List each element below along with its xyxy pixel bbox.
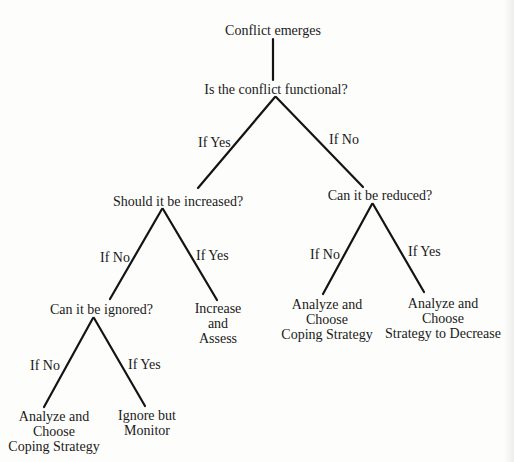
outcome-ignore-monitor: Ignore but Monitor [112, 408, 182, 438]
node-is-functional: Is the conflict functional? [196, 82, 356, 97]
outcome-line: Coping Strategy [0, 439, 108, 454]
label-increase-no: If No [100, 250, 130, 265]
tree-edges [0, 0, 514, 462]
node-can-reduce: Can it be reduced? [325, 188, 435, 203]
outcome-line: and [183, 316, 253, 331]
label-ignore-no: If No [30, 358, 60, 373]
outcome-line: Monitor [112, 423, 182, 438]
label-ignore-yes: If Yes [128, 357, 161, 372]
node-conflict-emerges: Conflict emerges [213, 23, 333, 38]
label-functional-no: If No [329, 132, 359, 147]
outcome-line: Choose [0, 424, 108, 439]
outcome-line: Strategy to Decrease [383, 326, 503, 341]
label-reduce-yes: If Yes [408, 244, 441, 259]
outcome-line: Choose [272, 312, 382, 327]
outcome-line: Analyze and [0, 409, 108, 424]
outcome-reduce-coping: Analyze and Choose Coping Strategy [272, 297, 382, 342]
outcome-line: Analyze and [383, 296, 503, 311]
outcome-ignore-coping: Analyze and Choose Coping Strategy [0, 409, 108, 454]
node-can-ignore: Can it be ignored? [44, 302, 159, 317]
outcome-line: Ignore but [112, 408, 182, 423]
outcome-line: Assess [183, 331, 253, 346]
outcome-line: Coping Strategy [272, 327, 382, 342]
outcome-increase-assess: Increase and Assess [183, 301, 253, 346]
label-increase-yes: If Yes [196, 248, 229, 263]
outcome-line: Analyze and [272, 297, 382, 312]
outcome-line: Increase [183, 301, 253, 316]
outcome-strategy-decrease: Analyze and Choose Strategy to Decrease [383, 296, 503, 341]
outcome-line: Choose [383, 311, 503, 326]
node-should-increase: Should it be increased? [108, 194, 248, 209]
label-reduce-no: If No [310, 247, 340, 262]
label-functional-yes: If Yes [198, 135, 231, 150]
